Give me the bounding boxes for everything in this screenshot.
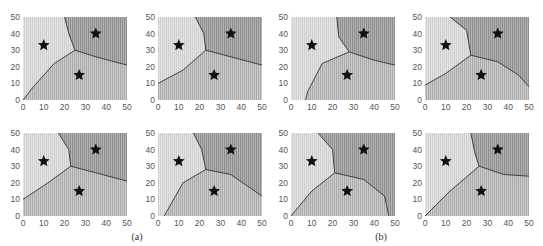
- y-tick-label: 20: [279, 178, 289, 188]
- x-tick-label: 40: [369, 102, 379, 112]
- x-tick-label: 20: [60, 102, 70, 112]
- x-tick-label: 20: [462, 102, 472, 112]
- x-tick-label: 20: [60, 218, 70, 228]
- panel-2: 0102030405001020304050: [146, 12, 267, 112]
- x-tick-label: 20: [195, 102, 205, 112]
- y-tick-label: 20: [146, 178, 156, 188]
- x-tick-label: 50: [257, 102, 267, 112]
- y-tick-label: 20: [413, 178, 423, 188]
- figure-canvas: 0102030405001020304050010203040500102030…: [0, 0, 543, 246]
- x-tick-label: 30: [349, 102, 359, 112]
- x-tick-label: 40: [101, 218, 111, 228]
- y-tick-label: 50: [413, 12, 423, 22]
- x-tick-label: 20: [462, 218, 472, 228]
- x-tick-label: 40: [503, 218, 513, 228]
- y-tick-label: 30: [146, 161, 156, 171]
- y-tick-label: 30: [11, 45, 21, 55]
- x-tick-label: 10: [39, 102, 49, 112]
- x-tick-label: 0: [289, 102, 294, 112]
- x-tick-label: 50: [257, 218, 267, 228]
- x-tick-label: 0: [423, 102, 428, 112]
- panel-5: 0102030405001020304050: [11, 128, 132, 228]
- x-tick-label: 40: [369, 218, 379, 228]
- x-tick-label: 10: [441, 218, 451, 228]
- x-tick-label: 40: [503, 102, 513, 112]
- y-tick-label: 20: [413, 62, 423, 72]
- x-tick-label: 30: [483, 218, 493, 228]
- panel-4: 0102030405001020304050: [413, 12, 534, 112]
- panel-1: 0102030405001020304050: [11, 12, 132, 112]
- x-tick-label: 30: [216, 218, 226, 228]
- x-tick-label: 30: [81, 102, 91, 112]
- y-tick-label: 10: [11, 194, 21, 204]
- y-tick-label: 20: [146, 62, 156, 72]
- y-tick-label: 10: [279, 78, 289, 88]
- y-tick-label: 30: [11, 161, 21, 171]
- y-tick-label: 0: [283, 211, 288, 221]
- y-tick-label: 40: [146, 145, 156, 155]
- y-tick-label: 0: [15, 95, 20, 105]
- y-tick-label: 30: [146, 45, 156, 55]
- y-tick-label: 30: [279, 45, 289, 55]
- y-tick-label: 50: [413, 128, 423, 138]
- panel-6: 0102030405001020304050: [146, 128, 267, 228]
- y-tick-label: 10: [413, 194, 423, 204]
- caption-b: (b): [375, 231, 387, 243]
- x-tick-label: 0: [156, 102, 161, 112]
- x-tick-label: 40: [236, 102, 246, 112]
- y-tick-label: 40: [279, 145, 289, 155]
- y-tick-label: 50: [279, 128, 289, 138]
- y-tick-label: 50: [279, 12, 289, 22]
- y-tick-label: 10: [279, 194, 289, 204]
- x-tick-label: 10: [307, 218, 317, 228]
- x-tick-label: 30: [216, 102, 226, 112]
- y-tick-label: 0: [417, 211, 422, 221]
- y-tick-label: 40: [11, 29, 21, 39]
- x-tick-label: 50: [524, 102, 534, 112]
- panels-group: 0102030405001020304050010203040500102030…: [11, 12, 534, 228]
- y-tick-label: 10: [413, 78, 423, 88]
- y-tick-label: 10: [146, 78, 156, 88]
- y-tick-label: 0: [150, 211, 155, 221]
- y-tick-label: 20: [279, 62, 289, 72]
- panel-8: 0102030405001020304050: [413, 128, 534, 228]
- x-tick-label: 0: [156, 218, 161, 228]
- x-tick-label: 30: [349, 218, 359, 228]
- y-tick-label: 0: [15, 211, 20, 221]
- x-tick-label: 30: [81, 218, 91, 228]
- y-tick-label: 50: [11, 128, 21, 138]
- x-tick-label: 20: [195, 218, 205, 228]
- x-tick-label: 50: [390, 102, 400, 112]
- y-tick-label: 40: [146, 29, 156, 39]
- x-tick-label: 0: [21, 218, 26, 228]
- y-tick-label: 50: [146, 128, 156, 138]
- y-tick-label: 20: [11, 178, 21, 188]
- y-tick-label: 40: [279, 29, 289, 39]
- y-tick-label: 50: [11, 12, 21, 22]
- caption-a: (a): [131, 231, 142, 243]
- x-tick-label: 10: [174, 102, 184, 112]
- x-tick-label: 50: [390, 218, 400, 228]
- y-tick-label: 0: [283, 95, 288, 105]
- y-tick-label: 10: [11, 78, 21, 88]
- y-tick-label: 0: [417, 95, 422, 105]
- x-tick-label: 30: [483, 102, 493, 112]
- y-tick-label: 40: [11, 145, 21, 155]
- y-tick-label: 20: [11, 62, 21, 72]
- x-tick-label: 10: [307, 102, 317, 112]
- x-tick-label: 10: [39, 218, 49, 228]
- panel-7: 0102030405001020304050: [279, 128, 400, 228]
- x-tick-label: 0: [423, 218, 428, 228]
- y-tick-label: 50: [146, 12, 156, 22]
- panel-3: 0102030405001020304050: [279, 12, 400, 112]
- y-tick-label: 30: [413, 45, 423, 55]
- y-tick-label: 40: [413, 29, 423, 39]
- y-tick-label: 30: [413, 161, 423, 171]
- x-tick-label: 10: [174, 218, 184, 228]
- x-tick-label: 0: [21, 102, 26, 112]
- x-tick-label: 20: [328, 102, 338, 112]
- x-tick-label: 40: [101, 102, 111, 112]
- x-tick-label: 10: [441, 102, 451, 112]
- y-tick-label: 10: [146, 194, 156, 204]
- x-tick-label: 0: [289, 218, 294, 228]
